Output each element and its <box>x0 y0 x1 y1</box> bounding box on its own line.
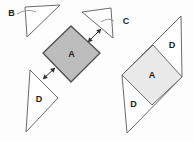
triangle-b <box>25 5 60 37</box>
label-c: C <box>123 16 130 26</box>
label-d-left-triangle: D <box>36 94 43 104</box>
label-a-left-square: A <box>68 49 75 59</box>
shapes-diagram-canvas: BCADDAD <box>0 0 193 141</box>
label-a-right-diamond: A <box>149 70 156 80</box>
move-arrow-bottom-left-icon <box>43 68 55 79</box>
geometry-figure: BCADDAD <box>0 0 193 141</box>
label-d-top-right: D <box>169 40 176 50</box>
move-arrow-top-right-icon <box>88 29 101 42</box>
label-d-bottom-right: D <box>130 99 137 109</box>
triangle-c <box>82 8 113 38</box>
label-b: B <box>8 8 15 18</box>
